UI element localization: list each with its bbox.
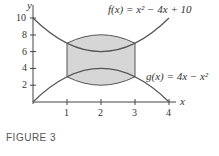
x-tick-2: 2 — [98, 107, 103, 118]
y-tick-4: 4 — [22, 62, 27, 73]
y-tick-6: 6 — [22, 46, 27, 57]
figure-caption: FIGURE 3 — [6, 132, 56, 143]
f-label: f(x) = x² − 4x + 10 — [108, 3, 192, 15]
x-tick-3: 3 — [132, 107, 137, 118]
y-tick-2: 2 — [22, 79, 27, 90]
g-label: g(x) = 4x − x² — [146, 70, 208, 82]
y-tick-8: 8 — [22, 29, 27, 40]
x-tick-1: 1 — [64, 107, 69, 118]
y-axis-label: y — [27, 0, 32, 11]
x-tick-4: 4 — [166, 107, 171, 118]
y-tick-10: 10 — [16, 12, 26, 23]
x-axis-label: x — [180, 95, 185, 107]
